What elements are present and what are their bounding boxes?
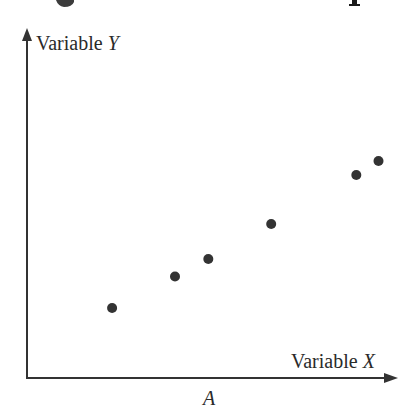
data-points [107, 156, 383, 313]
scatter-plot: Variable Y Variable X A [0, 0, 420, 418]
y-axis [22, 28, 32, 379]
y-axis-arrow-icon [22, 28, 32, 41]
y-axis-label: Variable Y [36, 32, 121, 54]
data-point [374, 156, 384, 166]
scatter-figure: Variable Y Variable X A [0, 0, 420, 418]
data-point [107, 303, 117, 313]
data-point [203, 254, 213, 264]
x-axis [26, 373, 398, 383]
x-axis-arrow-icon [384, 373, 398, 383]
data-point [351, 170, 361, 180]
data-point [266, 219, 276, 229]
clipped-title [56, 0, 360, 7]
x-axis-label: Variable X [291, 350, 376, 372]
data-point [170, 272, 180, 282]
figure-caption: A [201, 387, 216, 409]
